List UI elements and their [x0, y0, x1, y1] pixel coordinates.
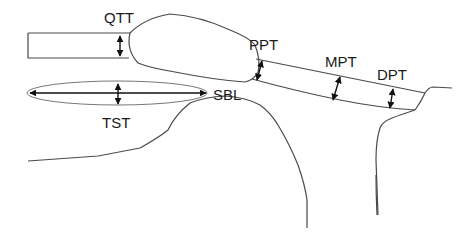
femur-condyle-outline: [28, 96, 307, 228]
tibia-anterior-outline: [376, 110, 415, 215]
mpt-arrow: [333, 77, 340, 100]
quadriceps-tendon-outline: [28, 33, 130, 58]
label-qtt: QTT: [104, 9, 134, 26]
dpt-arrow: [390, 89, 393, 108]
label-dpt: DPT: [377, 66, 407, 83]
tibial-tuberosity-outline: [415, 87, 452, 110]
label-mpt: MPT: [325, 53, 357, 70]
label-ppt: PPT: [249, 36, 278, 53]
patella-outline: [129, 14, 259, 82]
label-sbl: SBL: [213, 86, 241, 103]
tendon-measurement-diagram: QTT PPT MPT DPT SBL TST: [0, 0, 475, 240]
label-tst: TST: [102, 114, 130, 131]
